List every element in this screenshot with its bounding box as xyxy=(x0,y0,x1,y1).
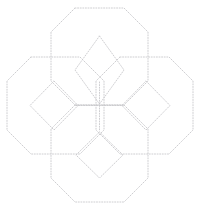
geometric-pattern-canvas xyxy=(0,0,199,211)
